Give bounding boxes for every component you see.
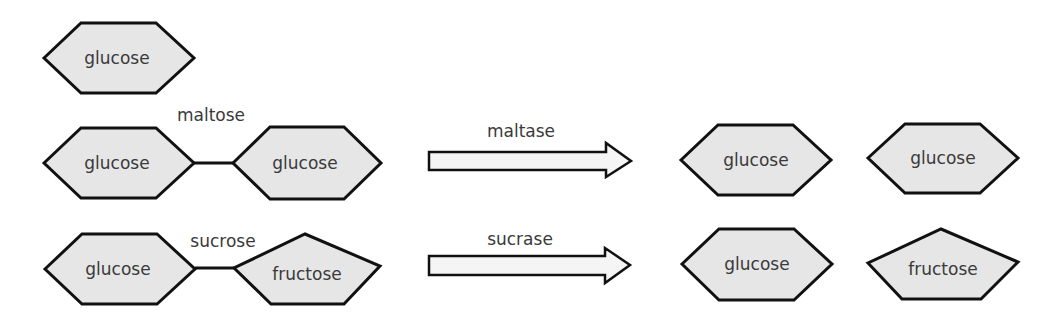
sucrase-reaction-arrow: sucrase (429, 229, 630, 283)
sucrase-enzyme-label: sucrase (487, 229, 553, 249)
glucose-label: glucose (84, 48, 149, 68)
glucose-label: glucose (723, 150, 788, 170)
maltose-molecule: glucose glucose (44, 127, 381, 199)
digestion-diagram: glucose maltose glucose glucose maltase … (0, 0, 1060, 329)
fructose-label: fructose (908, 259, 977, 279)
glucose-label: glucose (84, 153, 149, 173)
arrow-right-icon (429, 248, 630, 283)
glucose-label: glucose (272, 153, 337, 173)
sucrose-products: glucose fructose (682, 229, 1018, 300)
sucrose-row: sucrose glucose fructose sucrase glucose… (45, 229, 1018, 304)
glucose-label: glucose (910, 148, 975, 168)
fructose-label: fructose (272, 264, 341, 284)
maltase-enzyme-label: maltase (487, 121, 555, 141)
maltose-products: glucose glucose (681, 124, 1018, 195)
maltase-reaction-arrow: maltase (429, 121, 631, 177)
maltose-row: maltose glucose glucose maltase glucose … (44, 105, 1018, 199)
arrow-right-icon (429, 143, 631, 177)
glucose-label: glucose (85, 259, 150, 279)
glucose-label: glucose (724, 254, 789, 274)
maltose-label: maltose (177, 105, 245, 125)
sucrose-label: sucrose (190, 231, 255, 251)
glucose-monomer-top: glucose (44, 23, 194, 93)
